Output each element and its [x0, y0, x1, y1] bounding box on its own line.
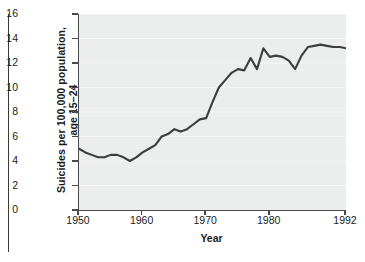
y-tick-mark [72, 13, 78, 15]
y-tick-label: 0 [0, 203, 18, 215]
y-tick-mark [72, 62, 78, 64]
x-tick-label: 1960 [120, 214, 164, 226]
plot-area [78, 14, 346, 211]
y-tick-label: 4 [0, 154, 18, 166]
x-tick-mark [344, 210, 346, 215]
y-tick-label: 16 [0, 7, 18, 19]
x-tick-mark [141, 210, 143, 215]
x-tick-label: 1950 [56, 214, 100, 226]
y-axis-label-text: Suicides per 100,000 population, age 15–… [55, 27, 80, 193]
y-tick-label: 8 [0, 105, 18, 117]
chart-canvas [79, 14, 346, 210]
x-tick-label: 1980 [247, 214, 291, 226]
x-axis-label: Year [78, 232, 345, 244]
y-tick-mark [72, 136, 78, 138]
y-tick-mark [72, 111, 78, 113]
y-tick-label: 10 [0, 81, 18, 93]
y-tick-mark [72, 38, 78, 40]
x-tick-label: 1992 [323, 214, 365, 226]
y-tick-label: 2 [0, 179, 18, 191]
figure: Suicides per 100,000 population, age 15–… [0, 0, 365, 262]
y-tick-label: 12 [0, 56, 18, 68]
x-tick-mark [204, 210, 206, 215]
y-tick-mark [72, 87, 78, 89]
x-tick-mark [77, 210, 79, 215]
y-tick-mark [72, 185, 78, 187]
y-tick-label: 6 [0, 130, 18, 142]
y-tick-label: 14 [0, 32, 18, 44]
y-tick-mark [72, 160, 78, 162]
data-series-line [79, 45, 346, 161]
series-path [79, 45, 346, 161]
x-tick-label: 1970 [183, 214, 227, 226]
x-tick-mark [268, 210, 270, 215]
